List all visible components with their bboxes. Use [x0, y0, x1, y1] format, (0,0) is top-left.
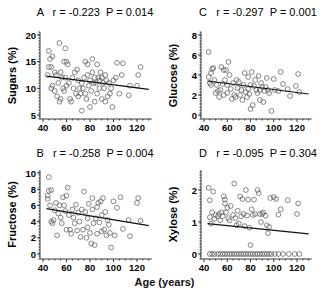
- y-tick-label: 4: [31, 216, 37, 227]
- panel-title: D r = -0.095 P = 0.304: [199, 147, 317, 159]
- y-tick-label: 10: [25, 168, 36, 179]
- data-points: [206, 181, 301, 256]
- x-tick-label: 120: [129, 122, 145, 133]
- y-axis-label: Xylose (%): [167, 186, 179, 242]
- y-tick-label: 1: [192, 217, 198, 228]
- panel-title: B r = -0.258 P = 0.004: [36, 147, 153, 159]
- y-tick-label: 8: [31, 184, 36, 195]
- panel-title: C r = -0.297 P = 0.001: [199, 6, 317, 18]
- x-tick-label: 120: [129, 262, 145, 273]
- figure: A r = -0.223 P = 0.014510152040608010012…: [0, 0, 329, 300]
- panel-b: B r = -0.258 P = 0.004024681040608010012…: [6, 147, 154, 273]
- y-tick-label: 0: [31, 249, 36, 260]
- x-tick-label: 60: [222, 262, 233, 273]
- panel-c: C r = -0.297 P = 0.00102468406080100120G…: [167, 6, 317, 133]
- x-tick-label: 80: [245, 122, 256, 133]
- panel-title: A r = -0.223 P = 0.014: [37, 6, 154, 18]
- y-tick-label: 2: [192, 185, 197, 196]
- regression-line: [47, 209, 149, 226]
- y-tick-label: 6: [31, 200, 36, 211]
- x-tick-label: 100: [266, 122, 282, 133]
- regression-line: [47, 76, 149, 89]
- y-tick-label: 10: [25, 83, 36, 94]
- panel-a: A r = -0.223 P = 0.014510152040608010012…: [6, 6, 153, 133]
- x-axis-label: Age (years): [0, 276, 329, 288]
- y-tick-label: 2: [192, 90, 197, 101]
- y-tick-label: 20: [25, 30, 36, 41]
- x-tick-label: 100: [266, 262, 282, 273]
- y-tick-label: 6: [192, 50, 197, 61]
- data-points: [206, 50, 301, 114]
- x-tick-label: 60: [61, 262, 72, 273]
- y-tick-label: 0: [192, 110, 197, 121]
- y-tick-label: 5: [31, 110, 37, 121]
- x-tick-label: 120: [289, 122, 305, 133]
- regression-line: [207, 224, 308, 234]
- panel-d: D r = -0.095 P = 0.304012406080100120Xyl…: [167, 147, 317, 273]
- y-tick-label: 4: [192, 70, 198, 81]
- x-tick-label: 120: [289, 262, 305, 273]
- x-tick-label: 40: [199, 262, 210, 273]
- x-tick-label: 40: [199, 122, 210, 133]
- y-axis-label: Fructose (%): [6, 181, 18, 248]
- y-tick-label: 2: [31, 232, 36, 243]
- data-points: [45, 41, 143, 114]
- x-tick-label: 80: [245, 262, 256, 273]
- x-tick-label: 40: [38, 262, 49, 273]
- x-tick-label: 60: [222, 122, 233, 133]
- data-points: [45, 175, 143, 250]
- x-tick-label: 100: [106, 262, 122, 273]
- y-tick-label: 8: [192, 30, 197, 41]
- x-tick-label: 80: [85, 262, 96, 273]
- y-axis-label: Sugars (%): [6, 46, 18, 104]
- x-tick-label: 60: [61, 122, 72, 133]
- y-tick-label: 15: [25, 56, 36, 67]
- y-axis-label: Glucose (%): [167, 43, 179, 107]
- x-tick-label: 80: [85, 122, 96, 133]
- x-tick-label: 40: [38, 122, 49, 133]
- x-tick-label: 100: [106, 122, 122, 133]
- y-tick-label: 0: [192, 249, 197, 260]
